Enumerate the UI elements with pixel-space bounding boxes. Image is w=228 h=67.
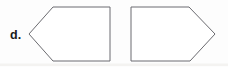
- item-label-d: d.: [10, 28, 22, 42]
- shape-left-pointing-pentagon: [29, 7, 110, 61]
- figure-container: d.: [0, 0, 228, 66]
- page-bottom-tint: [0, 64, 228, 67]
- geometry-figure-svg: d.: [0, 0, 228, 66]
- shape-right-pointing-pentagon: [131, 7, 215, 61]
